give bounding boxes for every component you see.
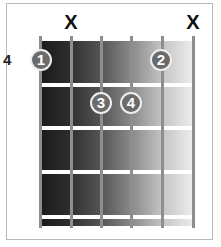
string-3 bbox=[100, 36, 103, 228]
finger-dot-3: 3 bbox=[90, 92, 112, 114]
finger-dot-1: 1 bbox=[30, 49, 52, 71]
start-fret-label: 4 bbox=[3, 51, 11, 68]
fret-line bbox=[40, 215, 193, 219]
nut bbox=[40, 37, 193, 41]
string-6 bbox=[192, 36, 195, 228]
string-4 bbox=[130, 36, 133, 228]
mute-x-icon: X bbox=[183, 12, 203, 32]
fret-line bbox=[40, 126, 193, 130]
fret-line bbox=[40, 83, 193, 87]
finger-dot-2: 2 bbox=[150, 49, 172, 71]
mute-x-icon: X bbox=[61, 12, 81, 32]
fret-line bbox=[40, 170, 193, 174]
finger-dot-4: 4 bbox=[120, 92, 142, 114]
string-2 bbox=[70, 36, 73, 228]
